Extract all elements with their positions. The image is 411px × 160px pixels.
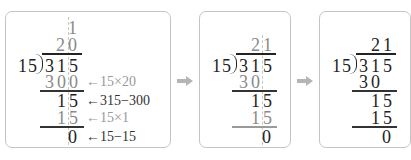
quotient: 21 bbox=[251, 36, 275, 54]
step-product-1: 300 bbox=[45, 73, 81, 91]
division-overline bbox=[236, 53, 276, 55]
division-overline bbox=[356, 53, 396, 55]
step-product-2: 15 bbox=[371, 109, 395, 127]
step-product-1: 30 bbox=[239, 73, 263, 91]
right-arrow-icon bbox=[296, 75, 314, 87]
quotient: 21 bbox=[371, 36, 395, 54]
quotient-partial-tens: 20 bbox=[56, 36, 80, 54]
annotation-remainder-1: ←315−300 bbox=[86, 94, 150, 108]
step-product-2: 15 bbox=[57, 109, 81, 127]
annotation-product-2: ←15×1 bbox=[86, 111, 129, 125]
division-overline bbox=[42, 53, 82, 55]
step-remainder-2: 0 bbox=[68, 128, 80, 146]
annotation-remainder-2: ←15−15 bbox=[86, 130, 136, 144]
step-product-2: 15 bbox=[251, 109, 275, 127]
annotation-product-1: ←15×20 bbox=[86, 75, 136, 89]
step-remainder-2: 0 bbox=[382, 128, 394, 146]
step-remainder-2: 0 bbox=[262, 128, 274, 146]
right-arrow-icon bbox=[176, 75, 194, 87]
step-product-1: 30 bbox=[359, 73, 383, 91]
